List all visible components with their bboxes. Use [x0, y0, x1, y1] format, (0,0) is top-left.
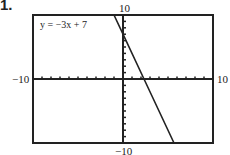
x-max-label: 10 — [217, 74, 228, 85]
x-min-label: −10 — [12, 74, 29, 85]
graph-window — [0, 0, 230, 155]
equation-label: y = −3x + 7 — [40, 19, 87, 30]
y-min-label: −10 — [115, 146, 132, 155]
y-max-label: 10 — [119, 3, 130, 14]
